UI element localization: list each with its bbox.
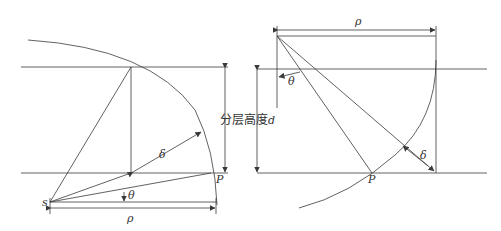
left-ray-to-base xyxy=(50,173,131,202)
label-theta-right: θ xyxy=(288,75,295,88)
label-rho-left: ρ xyxy=(126,212,134,225)
right-ray-to-P xyxy=(277,36,372,173)
label-rho-right: ρ xyxy=(354,15,362,28)
left-ray-to-top xyxy=(50,67,131,202)
left-arc xyxy=(28,40,217,205)
label-delta-left: δ xyxy=(159,148,166,161)
label-delta-right: δ xyxy=(420,149,427,162)
layer-geometry-diagram: s P ρ θ δ 分层高度d ρ θ δ P xyxy=(0,0,501,231)
right-ray-diagonal xyxy=(277,36,434,171)
label-s: s xyxy=(42,196,48,209)
left-delta-arrow xyxy=(133,132,201,172)
layer-height-label: 分层高度d xyxy=(220,112,275,127)
right-diagram: ρ θ δ P xyxy=(257,15,487,208)
label-theta-left: θ xyxy=(128,189,135,202)
label-P-left: P xyxy=(215,173,224,186)
left-diagram: s P ρ θ δ xyxy=(21,40,228,225)
label-P-right: P xyxy=(367,173,376,186)
